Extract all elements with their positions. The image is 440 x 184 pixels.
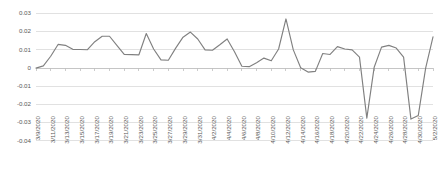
x-axis-tick-label: 3/31/2020 — [196, 116, 203, 144]
y-axis-tick-label: -0.03 — [17, 118, 32, 125]
chart-canvas: 0.030.020.010-0.01-0.02-0.03-0.04 3/9/20… — [0, 0, 440, 184]
x-axis-tick-label: 3/15/2020 — [78, 116, 85, 144]
x-axis-tick-label: 4/4/2020 — [225, 116, 232, 141]
y-axis-tick-label: 0.01 — [19, 46, 32, 53]
x-axis-tick-label: 4/16/2020 — [313, 116, 320, 144]
x-axis-tick-label: 3/29/2020 — [181, 116, 188, 144]
y-axis-tick-label: -0.02 — [17, 100, 32, 107]
x-axis-tick-label: 4/6/2020 — [240, 116, 247, 141]
y-axis-tick-label: -0.04 — [17, 137, 32, 144]
x-axis-tick-label: 3/11/2020 — [49, 116, 56, 144]
x-axis-tick-label: 4/28/2020 — [401, 116, 408, 144]
x-axis-tick-label: 4/12/2020 — [284, 116, 291, 144]
x-axis-tick-label: 3/25/2020 — [151, 116, 158, 144]
x-axis-tick-label: 4/20/2020 — [343, 116, 350, 144]
x-axis-tick-label: 4/22/2020 — [357, 116, 364, 144]
x-axis-tick-label: 4/30/2020 — [416, 116, 423, 144]
x-axis-tick-label: 4/10/2020 — [269, 116, 276, 144]
x-axis-tick-label: 4/24/2020 — [372, 116, 379, 144]
x-axis-tick-label: 4/8/2020 — [254, 116, 261, 141]
chart-background — [0, 0, 440, 184]
x-axis-tick-label: 5/2/2020 — [431, 116, 438, 141]
x-axis-tick-label: 4/2/2020 — [210, 116, 217, 141]
x-axis-tick-label: 3/23/2020 — [137, 116, 144, 144]
x-axis-tick-label: 3/19/2020 — [107, 116, 114, 144]
x-axis-tick-label: 3/21/2020 — [122, 116, 129, 144]
y-axis-tick-label: 0 — [28, 64, 32, 71]
y-axis-tick-label: -0.01 — [17, 82, 32, 89]
x-axis-tick-label: 4/18/2020 — [328, 116, 335, 144]
x-axis-tick-label: 3/9/2020 — [34, 116, 41, 141]
x-axis-tick-label: 3/13/2020 — [63, 116, 70, 144]
y-axis-tick-label: 0.03 — [19, 9, 32, 16]
y-axis-tick-label: 0.02 — [19, 27, 32, 34]
line-chart: 0.030.020.010-0.01-0.02-0.03-0.04 3/9/20… — [0, 0, 440, 184]
x-axis-tick-label: 4/26/2020 — [387, 116, 394, 144]
x-axis-tick-label: 3/27/2020 — [166, 116, 173, 144]
x-axis-tick-label: 3/17/2020 — [93, 116, 100, 144]
x-axis-tick-label: 4/14/2020 — [299, 116, 306, 144]
